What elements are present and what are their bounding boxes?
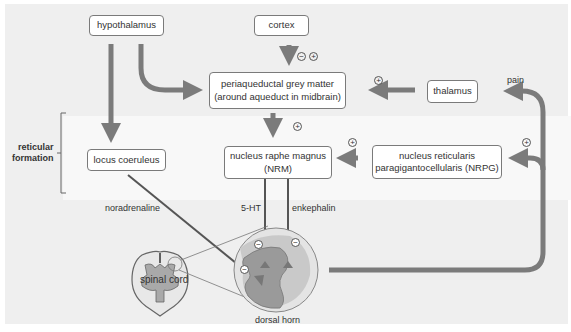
cortex-box: cortex [254, 15, 309, 36]
plus-sign-nrpg: + [348, 138, 357, 147]
locus-label: locus coeruleus [93, 154, 159, 166]
arrow-branch-to-nrpg [518, 158, 543, 170]
nrm-label-line1: nucleus raphe magnus [230, 150, 326, 162]
dorsal-horn-label: dorsal horn [255, 315, 300, 325]
minus-sign-serotonin: − [254, 240, 263, 249]
nrpg-box: nucleus reticularis paragigantocellulari… [372, 145, 502, 179]
pag-label-line2: (around aqueduct in midbrain) [214, 91, 341, 103]
thalamus-label: thalamus [433, 85, 472, 97]
noradrenaline-label: noradrenaline [105, 203, 160, 213]
plus-sign-pag-nrm: + [293, 122, 302, 131]
nrpg-label-line2: paragigantocellularis (NRPG) [375, 162, 499, 174]
reticular-formation-label: reticular formation [12, 142, 54, 165]
nrm-box: nucleus raphe magnus (NRM) [224, 146, 332, 179]
plus-sign-thalamus: + [374, 76, 383, 85]
reticular-label-line1: reticular [12, 142, 54, 153]
nrpg-label-line1: nucleus reticularis [399, 150, 475, 162]
locus-coeruleus-box: locus coeruleus [87, 149, 166, 171]
minus-sign-enkephalin: − [291, 238, 300, 247]
cortex-label: cortex [269, 19, 295, 31]
reticular-bracket [57, 113, 66, 193]
nrm-label-line2: (NRM) [264, 163, 292, 175]
thalamus-box: thalamus [427, 80, 478, 103]
arrow-spinal-ascending [329, 91, 543, 270]
pain-label: pain [507, 75, 524, 85]
arrow-hypothalamus-to-pag [141, 44, 193, 90]
reticular-label-line2: formation [12, 153, 54, 164]
plus-sign-cortex: + [309, 52, 318, 61]
pag-box: periaqueductal grey matter (around aqued… [209, 72, 346, 109]
serotonin-label: 5-HT [241, 203, 261, 213]
minus-sign-noradrenaline: − [240, 265, 249, 274]
enkephalin-label: enkephalin [292, 203, 336, 213]
pag-label-line1: periaqueductal grey matter [221, 78, 334, 90]
plus-sign-pain-branch: + [522, 138, 531, 147]
hypothalamus-label: hypothalamus [97, 19, 156, 31]
minus-sign-cortex: − [297, 52, 306, 61]
hypothalamus-box: hypothalamus [89, 15, 164, 36]
spinal-cord-label: spinal cord [140, 274, 188, 285]
